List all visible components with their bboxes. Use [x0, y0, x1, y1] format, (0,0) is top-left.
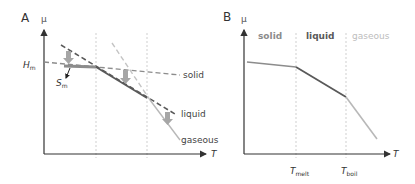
- panel-a-label: A: [21, 11, 30, 25]
- tmelt-label: Tmelt: [290, 166, 310, 177]
- solid-segment: [247, 62, 296, 67]
- panel-b-label: B: [223, 10, 231, 24]
- gaseous-label: gaseous: [181, 135, 219, 145]
- sm-label: Sm: [56, 78, 68, 89]
- sm-arrow: [66, 68, 70, 78]
- y-axis-label: μ: [41, 14, 47, 24]
- solid-label: solid: [183, 70, 204, 80]
- solid-potential-line: [44, 62, 180, 75]
- shift-arrow-solid: [63, 51, 74, 64]
- panel-a: A μ T Hm S: [21, 11, 219, 159]
- panel-b: B μ T solid liquid gaseous Tmelt Tboil: [223, 10, 400, 177]
- gaseous-segment: [346, 97, 377, 139]
- region-gaseous-label: gaseous: [352, 31, 390, 41]
- stable-solid-segment: [64, 66, 96, 67]
- y-axis-label: μ: [241, 14, 247, 24]
- hm-label: Hm: [23, 60, 36, 71]
- liquid-label: liquid: [181, 109, 206, 119]
- x-axis-label: T: [393, 149, 400, 159]
- region-liquid-label: liquid: [306, 31, 335, 41]
- stable-liquid-segment: [96, 67, 147, 98]
- liquid-segment: [296, 67, 346, 97]
- region-solid-label: solid: [258, 31, 282, 41]
- x-axis-label: T: [211, 149, 218, 159]
- tboil-label: Tboil: [341, 166, 358, 177]
